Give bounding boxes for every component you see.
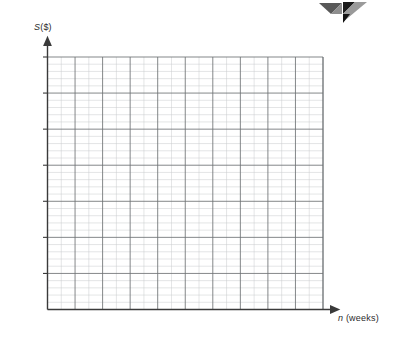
pinwheel-logo-icon bbox=[317, 0, 373, 24]
y-axis-unit: ($) bbox=[40, 22, 52, 32]
x-axis-label: n (weeks) bbox=[338, 313, 379, 323]
x-axis-symbol: n bbox=[338, 313, 343, 323]
axis-lines bbox=[48, 42, 335, 310]
plot-area bbox=[0, 0, 393, 351]
savings-line-chart: S($) n (weeks) bbox=[0, 0, 393, 351]
x-axis-unit: (weeks) bbox=[346, 313, 379, 323]
y-axis-label: S($) bbox=[34, 22, 52, 32]
